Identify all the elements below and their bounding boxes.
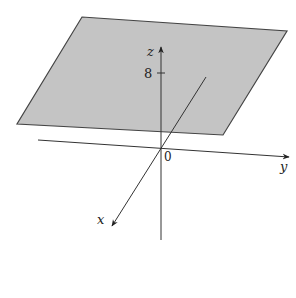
z-tick-label: 8 [144,66,152,81]
z-axis-label: z [146,44,154,59]
x-axis-label: x [97,212,105,227]
plane-diagram: z 8 0 y x [0,0,296,298]
origin-label: 0 [164,150,172,164]
y-axis-label: y [279,159,288,174]
